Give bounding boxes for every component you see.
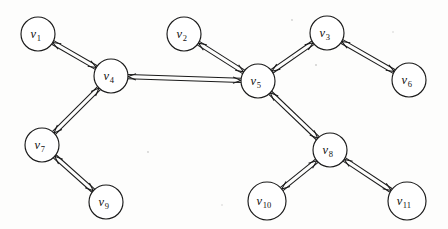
node-subscript-v4: 4: [110, 75, 115, 85]
graph-diagram: v1v2v3v4v5v6v7v8v9v10v11: [0, 0, 448, 229]
edge-v4-v5: [128, 74, 241, 84]
node-v3[interactable]: v3: [310, 16, 344, 50]
node-v2[interactable]: v2: [167, 17, 201, 51]
edge-v1-v4: [52, 41, 98, 70]
edge-v5-v8: [269, 91, 319, 140]
node-v6[interactable]: v6: [392, 63, 426, 97]
figure-canvas: v1v2v3v4v5v6v7v8v9v10v11: [0, 0, 448, 229]
node-v11[interactable]: v11: [388, 182, 426, 220]
edge-v2-v5: [197, 41, 245, 73]
node-subscript-v3: 3: [326, 32, 330, 42]
nodes-layer: v1v2v3v4v5v6v7v8v9v10v11: [21, 16, 426, 220]
node-subscript-v2: 2: [183, 33, 187, 43]
edge-v7-v9: [53, 155, 94, 193]
node-subscript-v8: 8: [329, 149, 333, 159]
node-v4[interactable]: v4: [94, 59, 128, 93]
node-subscript-v10: 10: [263, 200, 272, 210]
node-v7[interactable]: v7: [25, 128, 59, 162]
edge-v3-v6: [341, 40, 396, 74]
node-subscript-v9: 9: [105, 201, 109, 211]
node-subscript-v7: 7: [41, 144, 45, 154]
node-v8[interactable]: v8: [313, 133, 347, 167]
node-subscript-v11: 11: [403, 200, 411, 210]
node-v10[interactable]: v10: [248, 182, 286, 220]
node-subscript-v1: 1: [37, 33, 41, 43]
edge-v4-v7: [53, 87, 101, 135]
node-v5[interactable]: v5: [241, 64, 275, 98]
node-subscript-v5: 5: [257, 80, 261, 90]
node-v1[interactable]: v1: [21, 17, 55, 51]
edge-v8-v10: [280, 159, 318, 191]
edge-v8-v11: [343, 158, 392, 193]
node-v9[interactable]: v9: [89, 185, 123, 219]
node-subscript-v6: 6: [408, 79, 412, 89]
